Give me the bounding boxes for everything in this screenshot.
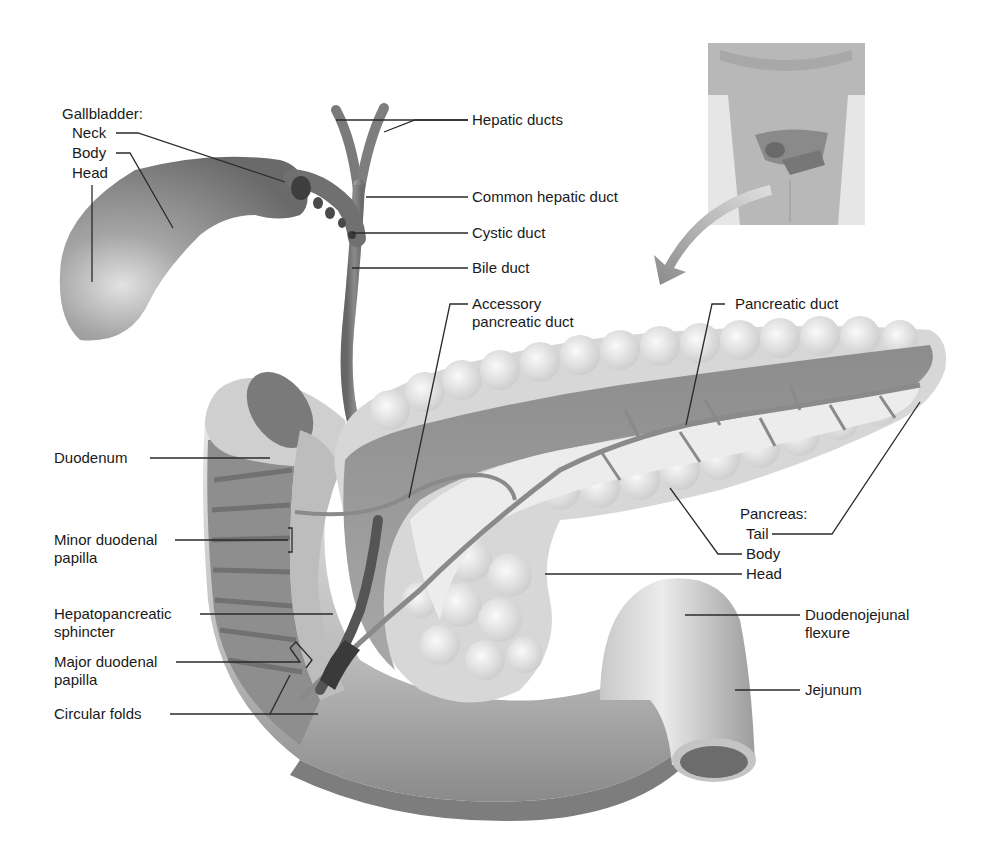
accessory-pancreatic-duct-label-line1: Accessory <box>472 295 541 313</box>
common-hepatic-duct-label: Common hepatic duct <box>472 188 618 206</box>
minor-duodenal-papilla-label-line1: Minor duodenal <box>54 531 157 549</box>
anatomy-diagram: Gallbladder: Neck Body Head Hepatic duct… <box>0 0 994 852</box>
pancreas-body-label: Body <box>746 545 780 563</box>
hepatopancreatic-sphincter-label-line2: sphincter <box>54 623 115 641</box>
minor-duodenal-papilla-label-line2: papilla <box>54 549 97 567</box>
duodenum-label: Duodenum <box>54 449 127 467</box>
pancreas-tail-label: Tail <box>746 525 769 543</box>
major-duodenal-papilla-label-line1: Major duodenal <box>54 653 157 671</box>
gallbladder-heading: Gallbladder: <box>62 105 143 123</box>
pancreas-head-label: Head <box>746 565 782 583</box>
gallbladder-neck-label: Neck <box>72 124 106 142</box>
major-duodenal-papilla-label-line2: papilla <box>54 671 97 689</box>
circular-folds-label: Circular folds <box>54 705 142 723</box>
hepatopancreatic-sphincter-label-line1: Hepatopancreatic <box>54 605 172 623</box>
pancreatic-duct-label: Pancreatic duct <box>735 295 838 313</box>
gallbladder-illustration <box>60 157 357 341</box>
bile-duct-label: Bile duct <box>472 259 530 277</box>
accessory-pancreatic-duct-label-line2: pancreatic duct <box>472 313 574 331</box>
jejunum-label: Jejunum <box>805 681 862 699</box>
hepatic-ducts-label: Hepatic ducts <box>472 111 563 129</box>
torso-inset <box>654 43 865 285</box>
gallbladder-body-label: Body <box>72 144 106 162</box>
cystic-duct-label: Cystic duct <box>472 224 545 242</box>
gallbladder-head-label: Head <box>72 164 108 182</box>
duodenojejunal-flexure-label-line1: Duodenojejunal <box>805 606 909 624</box>
duodenojejunal-flexure-label-line2: flexure <box>805 624 850 642</box>
pancreas-heading: Pancreas: <box>740 505 808 523</box>
